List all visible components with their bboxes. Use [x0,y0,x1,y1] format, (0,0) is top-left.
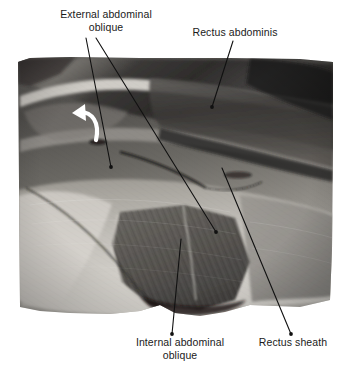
flap-left-edge-highlight [112,214,124,286]
external-oblique-reflected-flap [24,103,128,140]
specimen-base [18,55,334,317]
internal-oblique-fiber-texture [112,205,250,310]
photograph-canvas [0,0,345,367]
cut-edge-line [26,188,160,308]
flap-under-shadow [140,296,246,315]
rectus-sheath-surface [240,195,333,302]
dissection-photograph [0,0,345,367]
secondary-fascial-band [20,128,333,172]
flap-fold-highlight [183,206,196,300]
fascial-ridge-highlight [20,79,333,116]
photo-content [18,55,334,317]
left-fascia-wedge [18,191,112,308]
intermuscular-shadow [158,128,333,182]
label-external-abdominal-oblique: External abdominal oblique [30,8,182,33]
vignette [18,55,334,317]
label-rectus-sheath: Rectus sheath [246,336,340,349]
anatomical-figure: External abdominal oblique Rectus abdomi… [0,0,345,367]
upper-right-dark-mass [246,58,333,120]
upper-left-shadow [18,57,76,86]
upper-muscle-band [18,58,333,150]
internal-oblique-flap [112,205,250,310]
tendinous-intersections [89,139,262,190]
lower-aponeurosis-field [18,179,333,315]
global-texture [18,55,334,317]
label-rectus-abdominis: Rectus abdominis [184,26,286,39]
label-internal-abdominal-oblique: Internal abdominal oblique [116,336,244,361]
rectus-abdominis-muscle [149,78,333,168]
fiber-striations [30,200,333,282]
